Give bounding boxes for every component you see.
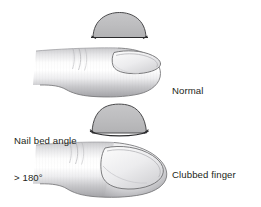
label-clubbed-finger-line2: and hourglass nail xyxy=(172,206,252,207)
label-nail-bed-angle: Nail bed angle > 180° xyxy=(14,110,77,207)
label-normal: Normal xyxy=(172,60,204,122)
clubbed-nail-cross-section xyxy=(90,104,149,136)
figure-root: Normal Nail bed angle > 180° Clubbed fin… xyxy=(0,0,261,207)
normal-finger xyxy=(33,48,161,97)
normal-panel xyxy=(33,13,161,97)
label-nail-bed-angle-line2: > 180° xyxy=(14,172,77,184)
label-clubbed-finger: Clubbed finger and hourglass nail xyxy=(172,144,252,207)
clubbed-nail-plate xyxy=(101,146,164,189)
label-normal-text: Normal xyxy=(172,85,204,97)
normal-nail-cross-section xyxy=(91,13,148,39)
label-clubbed-finger-line1: Clubbed finger xyxy=(172,169,252,181)
label-nail-bed-angle-line1: Nail bed angle xyxy=(14,135,77,147)
clubbed-dome-shape xyxy=(92,104,147,133)
normal-dome-shape xyxy=(93,13,146,38)
